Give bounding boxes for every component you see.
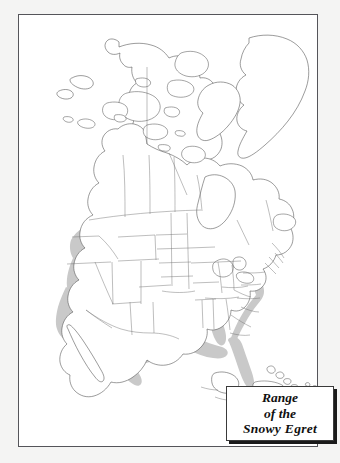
map-legend: Range of the Snowy Egret [226, 386, 334, 441]
alaska-southeast-islands [78, 119, 95, 128]
bahamas-island-1 [267, 366, 275, 373]
arctic-island-small-c [114, 115, 126, 122]
legend-line-2: of the [264, 406, 296, 422]
legend-line-3: Snowy Egret [243, 421, 317, 437]
newfoundland-outline [273, 214, 295, 231]
alaska-island-small-1 [63, 117, 73, 123]
arctic-island-ellesmere [175, 51, 209, 76]
map-frame: Range of the Snowy Egret [18, 14, 318, 447]
baffin-island-outline [197, 82, 240, 141]
bahamas-island-3 [284, 379, 291, 385]
north-america-mainland-outline [60, 124, 294, 397]
arctic-island-small-e [175, 131, 185, 137]
bahamas-island-2 [276, 372, 284, 378]
range-map-figure: Range of the Snowy Egret [0, 0, 340, 463]
arctic-island-southampton [182, 146, 206, 163]
greenland-outline [236, 35, 309, 158]
north-america-map [19, 15, 319, 448]
legend-line-1: Range [262, 390, 298, 406]
